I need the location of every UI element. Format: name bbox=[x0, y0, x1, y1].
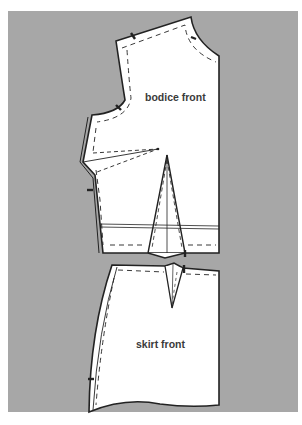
bodice-front-label: bodice front bbox=[145, 91, 206, 103]
bust-point bbox=[157, 148, 160, 151]
bodice-front-piece bbox=[80, 17, 219, 258]
skirt-front-label: skirt front bbox=[136, 338, 185, 350]
pattern-diagram bbox=[0, 0, 302, 425]
bodice-outline bbox=[83, 17, 219, 253]
bodice-waist-dart-fold bbox=[148, 253, 185, 258]
